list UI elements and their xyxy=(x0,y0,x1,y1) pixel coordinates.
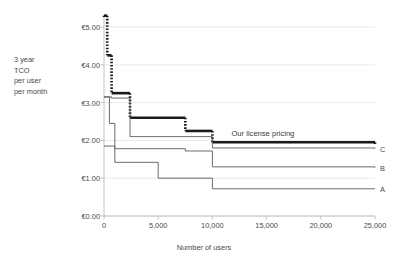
series-end-label-a: A xyxy=(380,184,385,193)
series-c xyxy=(104,97,375,149)
series-end-label-c: C xyxy=(380,144,385,153)
tco-step-chart: 3 year TCO per user per month €0.00€1.00… xyxy=(0,0,408,266)
x-axis-title: Number of users xyxy=(0,243,408,252)
plot-area xyxy=(0,0,408,266)
series-our-license-pricing xyxy=(104,16,375,145)
our-license-pricing-annotation: Our license pricing xyxy=(231,129,294,138)
series-end-label-b: B xyxy=(380,163,385,172)
series-a xyxy=(104,146,375,189)
